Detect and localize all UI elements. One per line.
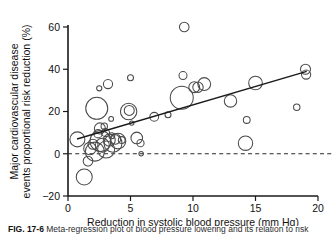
data-point-bubble xyxy=(238,136,252,150)
data-point-bubble xyxy=(124,105,134,115)
data-point-bubble xyxy=(86,97,108,119)
x-tick-label: 10 xyxy=(187,202,199,214)
data-point-bubble xyxy=(198,78,211,91)
y-tick-label: 20 xyxy=(48,105,60,117)
x-axis-title: Reduction in systolic blood pressure (mm… xyxy=(87,216,299,226)
data-point-bubble xyxy=(294,104,300,110)
y-axis-title-line: Major cardiovascular disease xyxy=(8,43,20,179)
figure-caption: FIG. 17-6 Meta-regression plot of blood … xyxy=(0,226,336,235)
caption-body: Meta-regression plot of blood pressure l… xyxy=(46,226,308,234)
caption-label: FIG. 17-6 xyxy=(8,226,44,234)
y-tick-label: 40 xyxy=(48,63,60,75)
x-tick-label: 5 xyxy=(128,202,134,214)
data-point-bubble xyxy=(179,72,187,80)
data-point-bubble xyxy=(97,86,102,91)
data-point-bubble xyxy=(243,117,250,124)
x-tick-label: 15 xyxy=(250,202,262,214)
figure-container: 05101520−200204060Reduction in systolic … xyxy=(0,0,336,235)
x-tick-label: 20 xyxy=(312,202,324,214)
y-tick-label: 0 xyxy=(54,148,60,160)
scatter-plot: 05101520−200204060Reduction in systolic … xyxy=(0,0,336,226)
y-tick-label: 60 xyxy=(48,21,60,33)
data-point-bubble xyxy=(224,95,236,107)
y-tick-label: −20 xyxy=(42,190,60,202)
y-axis-title: Major cardiovascular diseaseevents propo… xyxy=(8,25,32,199)
data-point-bubble xyxy=(128,75,134,81)
x-tick-label: 0 xyxy=(65,202,71,214)
data-point-bubble xyxy=(109,116,114,121)
data-point-bubble xyxy=(76,169,92,185)
data-point-bubble xyxy=(179,22,189,32)
y-axis-title-line: events proportional risk reduction (%) xyxy=(20,25,32,199)
data-point-bubble xyxy=(103,79,112,88)
